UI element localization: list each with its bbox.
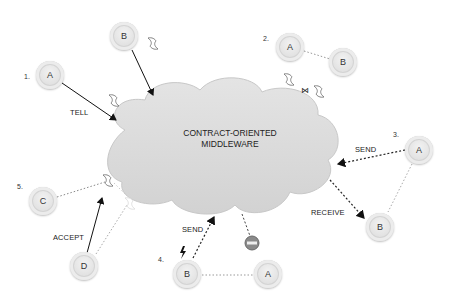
scenario-number-2: 2. — [263, 35, 269, 42]
d-link — [96, 205, 127, 254]
tell-label: TELL — [70, 108, 88, 117]
accept-arrow — [87, 198, 102, 253]
diagram-canvas: ⋈ — [0, 0, 452, 303]
contract-icon — [109, 95, 119, 107]
node-c-scenario5: C — [29, 187, 57, 215]
scenario2-link — [304, 51, 330, 59]
accept-label: ACCEPT — [53, 233, 84, 242]
scenario-number-3: 3. — [393, 131, 399, 138]
lightning-icon — [180, 246, 186, 259]
join-icon: ⋈ — [301, 86, 309, 95]
node-a-scenario2: A — [276, 33, 304, 61]
node-a-scenario1: A — [36, 61, 64, 89]
middleware-label-line1: CONTRACT-ORIENTED — [165, 128, 295, 139]
c-link — [57, 182, 105, 197]
middleware-label: CONTRACT-ORIENTED MIDDLEWARE — [165, 128, 295, 150]
scenario-number-1: 1. — [24, 73, 30, 80]
node-a-scenario4: A — [254, 260, 282, 288]
b-to-cloud-arrow — [132, 50, 153, 95]
scenario-number-5: 5. — [17, 183, 23, 190]
stop-icon — [245, 236, 259, 250]
scenario3-link — [388, 164, 412, 212]
node-b-scenario3: B — [366, 213, 394, 241]
middleware-label-line2: MIDDLEWARE — [165, 139, 295, 150]
stop-link — [242, 214, 250, 236]
node-b-scenario2: B — [329, 48, 357, 76]
node-d-scenario5: D — [70, 252, 98, 280]
node-a-scenario3: A — [405, 136, 433, 164]
node-b-scenario4: B — [173, 260, 201, 288]
receive-label: RECEIVE — [311, 208, 345, 217]
contract-icon — [103, 175, 113, 187]
send-label-4: SEND — [182, 225, 203, 234]
send-label-3: SEND — [355, 145, 376, 154]
scenario-number-4: 4. — [158, 256, 164, 263]
contract-icon — [148, 38, 158, 50]
send-arrow-4 — [193, 217, 214, 258]
node-b-top: B — [110, 22, 138, 50]
